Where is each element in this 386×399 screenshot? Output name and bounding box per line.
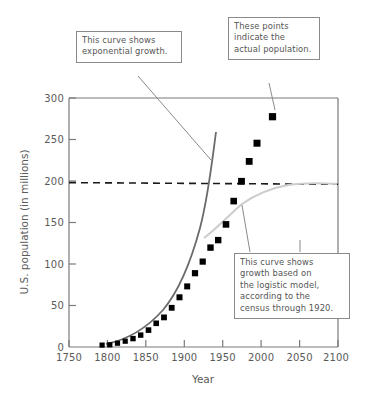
y-tick-labels: 300 250 200 150 100 50 0 (44, 93, 64, 353)
logistic-curve (204, 183, 337, 238)
data-point (223, 221, 230, 228)
data-point (254, 140, 261, 147)
data-point (146, 327, 152, 333)
annotation-logistic-model: This curve shows growth based on the log… (234, 253, 350, 319)
x-axis-title: Year (191, 373, 215, 385)
chart-canvas: 300 250 200 150 100 50 0 1750 1800 1850 … (0, 0, 386, 399)
data-point (123, 339, 128, 344)
data-point (200, 259, 206, 265)
y-tick-label: 0 (57, 342, 64, 353)
population-growth-chart: 300 250 200 150 100 50 0 1750 1800 1850 … (0, 0, 386, 399)
leader-line-logistic (242, 205, 250, 252)
data-point (184, 283, 190, 289)
y-axis-title: U.S. population (in millions) (18, 149, 30, 294)
data-point (169, 305, 175, 311)
y-tick-label: 200 (44, 176, 64, 187)
x-tick-label: 2100 (323, 352, 349, 363)
data-point (246, 158, 253, 165)
x-tick-label: 1900 (171, 352, 197, 363)
data-point (269, 113, 276, 120)
x-tick-label: 1950 (210, 352, 236, 363)
data-point (138, 332, 143, 337)
data-point (115, 341, 120, 346)
annotation-exponential-growth: This curve shows exponential growth. (76, 31, 182, 63)
leader-line-points (269, 83, 275, 110)
data-point (130, 336, 135, 341)
exponential-curve (106, 132, 216, 344)
data-point (230, 198, 237, 205)
data-point (161, 315, 167, 321)
x-tick-labels: 1750 1800 1850 1900 1950 2000 2050 2100 (56, 352, 349, 363)
data-point (107, 342, 112, 347)
data-point (207, 244, 213, 250)
data-point (215, 237, 221, 243)
data-point (177, 294, 183, 300)
y-tick-label: 100 (44, 259, 64, 270)
y-tick-label: 300 (44, 93, 64, 104)
annotation-actual-population: These points indicate the actual populat… (228, 17, 320, 60)
x-tick-label: 2050 (286, 352, 312, 363)
y-tick-label: 250 (44, 134, 64, 145)
x-tick-label: 1850 (133, 352, 159, 363)
leader-line-exponential (138, 76, 211, 160)
x-tick-label: 2000 (248, 352, 274, 363)
y-tick-label: 50 (51, 300, 64, 311)
y-tick-label: 150 (44, 217, 64, 228)
data-point (192, 270, 198, 276)
x-tick-label: 1800 (94, 352, 120, 363)
data-point (238, 178, 245, 185)
data-point (153, 321, 159, 327)
data-point (100, 343, 105, 348)
x-tick-label: 1750 (56, 352, 82, 363)
y-axis-ticks (69, 98, 76, 306)
